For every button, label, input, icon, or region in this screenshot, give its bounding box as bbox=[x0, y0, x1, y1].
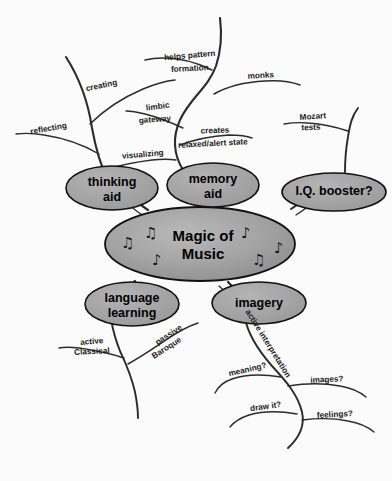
music-note-icon: ♫ bbox=[252, 251, 265, 269]
node-center-magic-of-music[interactable]: Magic of Music ♫ ♫ ♪ ♪ ♫ ♪ bbox=[105, 207, 295, 281]
memory-aid-label-1: memory bbox=[189, 172, 238, 186]
music-note-icon: ♫ bbox=[121, 234, 134, 252]
node-iq-booster[interactable]: I.Q. booster? bbox=[282, 173, 386, 211]
label-reflecting: reflecting bbox=[30, 121, 68, 136]
node-language-learning[interactable]: language learning bbox=[85, 282, 179, 326]
label-limbic-line2: gateway bbox=[138, 114, 171, 125]
label-classical: Classical bbox=[74, 346, 110, 357]
label-creating: creating bbox=[85, 78, 118, 93]
label-mozart: Mozart bbox=[299, 111, 326, 122]
label-monks: monks bbox=[247, 70, 274, 80]
branch-curve-imagery-trunk bbox=[245, 318, 303, 448]
iq-booster-label: I.Q. booster? bbox=[295, 184, 372, 198]
language-learning-label-2: learning bbox=[108, 306, 157, 320]
mind-map-canvas: Magic of Music ♫ ♫ ♪ ♪ ♫ ♪ thinking aid … bbox=[0, 0, 392, 481]
label-limbic-line1: limbic bbox=[145, 101, 170, 113]
label-images: images? bbox=[310, 374, 344, 385]
language-learning-label-1: language bbox=[105, 291, 160, 305]
music-note-icon: ♪ bbox=[274, 239, 284, 257]
music-note-icon: ♪ bbox=[241, 224, 251, 242]
label-helps-pattern-line2: formation bbox=[171, 63, 209, 74]
music-note-icon: ♫ bbox=[144, 224, 157, 242]
center-label-line2: Music bbox=[182, 245, 225, 262]
label-feelings: feelings? bbox=[317, 409, 353, 420]
center-label-line1: Magic of bbox=[173, 227, 235, 244]
thinking-aid-label-2: aid bbox=[103, 190, 121, 204]
branch-curve-draw-it bbox=[230, 412, 297, 427]
branch-curve-reflecting bbox=[16, 133, 99, 154]
branch-curve-meaning bbox=[215, 375, 281, 393]
branch-curve-thinking-trunk bbox=[66, 57, 107, 178]
node-thinking-aid[interactable]: thinking aid bbox=[66, 166, 158, 210]
branch-curve-language-trunk bbox=[111, 319, 138, 418]
branch-curve-images bbox=[288, 384, 366, 397]
label-helps-pattern-line1: helps pattern bbox=[164, 49, 216, 62]
label-relaxed-alert-state: relaxed/alert state bbox=[178, 137, 248, 150]
branch-curve-feelings bbox=[302, 419, 374, 432]
branch-curve-iq-trunk bbox=[345, 108, 358, 172]
node-imagery[interactable]: imagery bbox=[212, 282, 306, 324]
music-note-icon: ♪ bbox=[152, 251, 162, 269]
thinking-aid-label-1: thinking bbox=[88, 175, 137, 189]
memory-aid-label-2: aid bbox=[204, 187, 222, 201]
label-creates: creates bbox=[200, 125, 229, 135]
imagery-label: imagery bbox=[235, 296, 283, 310]
label-tests: tests bbox=[301, 123, 321, 133]
node-memory-aid[interactable]: memory aid bbox=[167, 163, 259, 207]
label-active: active bbox=[80, 336, 104, 347]
branch-curve-monks bbox=[214, 81, 300, 94]
